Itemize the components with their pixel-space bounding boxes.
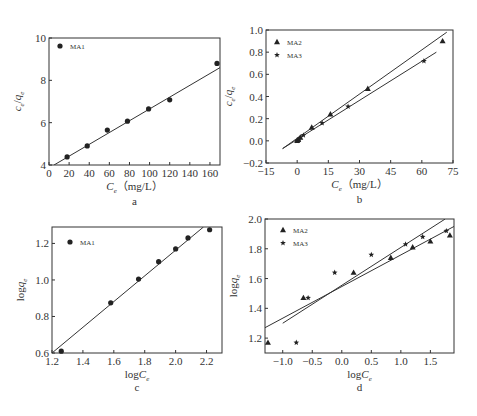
chart-caption: b xyxy=(357,193,363,205)
x-tick-label: 1.6 xyxy=(107,355,121,367)
x-tick-label: 1.0 xyxy=(394,355,408,367)
x-tick-label: 1.8 xyxy=(138,355,152,367)
plot-frame xyxy=(52,227,222,353)
chart-c: 1.21.41.61.82.02.20.60.81.01.2logCelogqe… xyxy=(14,227,222,393)
y-tick-label: 1.0 xyxy=(249,24,263,36)
chart-b: −1501530456075−0.20.00.20.40.60.81.0Ce（m… xyxy=(222,24,459,205)
chart-caption: d xyxy=(357,381,363,393)
legend-item: MA1 xyxy=(57,43,85,51)
x-tick-label: 60 xyxy=(416,165,428,177)
chart-d: −1.0−0.50.00.51.01.51.21.41.61.82.0logCe… xyxy=(227,213,454,393)
legend-item: MA2 xyxy=(280,227,308,235)
y-tick-label: 4 xyxy=(41,159,47,171)
y-tick-label: 0.8 xyxy=(249,46,263,58)
legend-item: MA1 xyxy=(67,239,95,247)
y-axis-label: logqe xyxy=(227,275,242,298)
figure: 02040608010012014016046810Ce（mg/L）ce/qea… xyxy=(0,0,477,416)
x-tick-label: 100 xyxy=(141,167,158,179)
series-MA3 xyxy=(293,228,449,345)
y-tick-label: 0.8 xyxy=(35,310,49,322)
x-tick-label: 40 xyxy=(84,167,96,179)
y-tick-label: 8 xyxy=(41,74,47,86)
x-tick-label: 2.2 xyxy=(200,355,214,367)
y-tick-label: 1.4 xyxy=(248,302,262,314)
y-tick-label: 0.2 xyxy=(249,113,263,125)
x-tick-label: 120 xyxy=(161,167,178,179)
chart-caption: c xyxy=(135,381,140,393)
y-tick-label: 0.6 xyxy=(35,347,49,359)
fit-line xyxy=(54,68,220,165)
x-tick-label: 0.5 xyxy=(364,355,378,367)
legend-label: MA2 xyxy=(293,227,308,235)
legend-item: MA3 xyxy=(280,240,308,248)
legend-label: MA1 xyxy=(70,43,85,51)
x-tick-label: 15 xyxy=(323,165,335,177)
y-tick-label: 1.8 xyxy=(248,243,262,255)
legend-label: MA3 xyxy=(293,240,308,248)
x-tick-label: 1.4 xyxy=(76,355,90,367)
y-tick-label: 0.4 xyxy=(249,91,263,103)
legend-item: MA3 xyxy=(274,52,302,60)
x-tick-label: 2.0 xyxy=(169,355,183,367)
y-tick-label: 6 xyxy=(41,117,47,129)
x-tick-label: −1.0 xyxy=(273,355,293,367)
x-tick-label: 140 xyxy=(182,167,199,179)
y-tick-label: 1.2 xyxy=(248,332,262,344)
y-tick-label: −0.2 xyxy=(243,157,263,169)
x-tick-label: 1.5 xyxy=(424,355,438,367)
x-tick-label: 60 xyxy=(104,167,116,179)
x-axis-label: Ce（mg/L） xyxy=(106,180,162,195)
plot-frame xyxy=(266,30,453,163)
plot-frame xyxy=(49,38,220,165)
y-tick-label: 0.6 xyxy=(249,68,263,80)
x-axis-label: Ce（mg/L） xyxy=(331,178,387,193)
legend-label: MA1 xyxy=(80,239,95,247)
fit-line xyxy=(283,32,447,148)
x-tick-label: 0.0 xyxy=(335,355,349,367)
x-tick-label: 0 xyxy=(294,165,300,177)
y-tick-label: 1.0 xyxy=(35,274,49,286)
legend-label: MA3 xyxy=(287,52,302,60)
x-tick-label: 45 xyxy=(385,165,397,177)
x-tick-label: 160 xyxy=(202,167,219,179)
y-tick-label: 10 xyxy=(35,32,47,44)
x-tick-label: 80 xyxy=(124,167,136,179)
x-tick-label: −0.5 xyxy=(302,355,322,367)
fit-line xyxy=(283,52,437,148)
legend-item: MA2 xyxy=(274,39,302,47)
chart-a: 02040608010012014016046810Ce（mg/L）ce/qea… xyxy=(11,32,220,207)
y-axis-label: ce/qe xyxy=(11,92,26,112)
x-tick-label: 0 xyxy=(46,167,52,179)
chart-caption: a xyxy=(132,195,137,207)
y-tick-label: 2.0 xyxy=(248,213,262,225)
series-MA1 xyxy=(65,61,220,160)
series-MA2 xyxy=(265,232,453,345)
legend-label: MA2 xyxy=(287,39,302,47)
y-tick-label: 0.0 xyxy=(249,135,263,147)
y-tick-label: 1.2 xyxy=(35,237,49,249)
x-tick-label: 30 xyxy=(354,165,366,177)
y-axis-label: ce/qe xyxy=(222,87,237,107)
y-tick-label: 1.6 xyxy=(248,273,262,285)
fit-line xyxy=(52,227,203,353)
x-tick-label: 20 xyxy=(64,167,76,179)
y-axis-label: logqe xyxy=(14,279,29,302)
x-tick-label: 75 xyxy=(448,165,460,177)
